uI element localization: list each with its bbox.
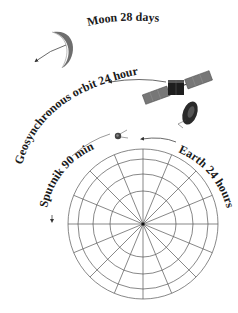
geo-label: Geosynchronous orbit 24 hours [0,0,140,166]
moon-label: Moon 28 days [86,10,161,29]
geosynchronous-satellite-icon [142,71,212,128]
moon-orbit-arrow [36,45,66,61]
earth-label: Earth 24 hours [177,142,238,210]
earth-rotation-arrow [142,138,176,142]
moon-icon [52,32,73,68]
orbit-diagram: Moon 28 days Geosynchronous orbit 24 hou… [0,0,238,313]
earth-pole-dot [141,222,144,225]
